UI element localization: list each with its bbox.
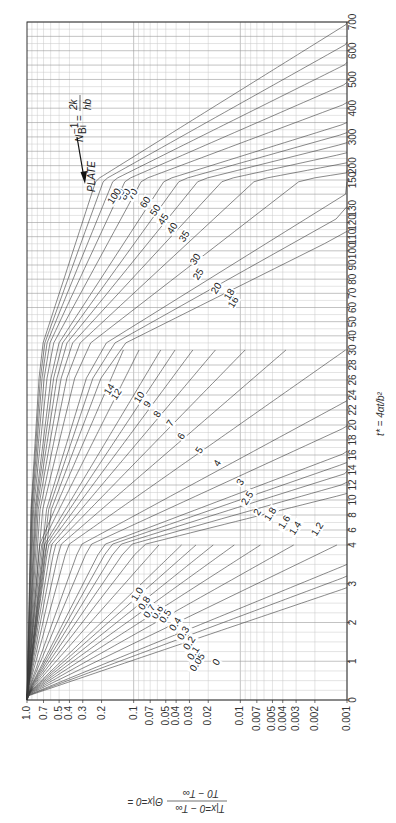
x-axis-title: t* = 4αt/b²	[375, 391, 386, 435]
x-tick-label: 10	[347, 494, 358, 506]
x-tick-label: 2	[347, 619, 358, 625]
x-tick-label: 80	[347, 273, 358, 285]
param-numerator: 2k	[68, 98, 79, 111]
y-tick-label: 0.02	[202, 706, 213, 726]
y-tick-label: 0.002	[309, 706, 320, 731]
x-tick-label: 14	[347, 464, 358, 476]
x-tick-label: 70	[347, 287, 358, 299]
x-tick-label: 8	[347, 512, 358, 518]
x-tick-label: 300	[347, 128, 358, 145]
y-tick-label: 0.004	[277, 706, 288, 731]
heisler-chart: 0123468101214161820222426283040506070809…	[0, 0, 396, 823]
y-tick-label: 0.7	[38, 706, 49, 720]
x-tick-label: 18	[347, 434, 358, 446]
x-tick-label: 6	[347, 527, 358, 533]
y-title-lhs: Θ|x=0 =	[127, 796, 163, 807]
y-title-numerator: T|x=0 − T∞	[175, 803, 225, 814]
x-tick-label: 700	[347, 13, 358, 30]
x-tick-label: 600	[347, 42, 358, 59]
curve	[27, 143, 347, 700]
x-tick-label: 0	[347, 697, 358, 703]
x-tick-label: 4	[347, 542, 358, 548]
curve	[27, 102, 347, 700]
y-tick-label: 0.007	[251, 706, 262, 731]
curve-label: 5	[192, 444, 205, 456]
curve-label: 25	[190, 266, 206, 283]
x-tick-label: 3	[347, 581, 358, 587]
x-tick-label: 22	[347, 404, 358, 416]
theta-axis-ticks: 1.00.70.50.40.30.20.10.070.050.040.030.0…	[21, 700, 352, 731]
param-symbol: N	[74, 134, 85, 142]
y-tick-label: 0.5	[53, 706, 64, 720]
x-tick-label: 12	[347, 479, 358, 491]
curve-label: 7	[163, 417, 176, 429]
y-axis-title: Θ|x=0 = T|x=0 − T∞ T0 − T∞	[127, 788, 227, 814]
y-tick-label: 1.0	[21, 706, 32, 720]
biot-parameter-label: N Bi −1 = 2k hb	[68, 95, 93, 142]
param-superscript: −1	[69, 122, 80, 134]
x-tick-label: 50	[347, 316, 358, 328]
y-tick-label: 0.07	[144, 706, 155, 726]
plate-label: PLATE	[86, 161, 97, 192]
x-tick-label: 500	[347, 71, 358, 88]
curve	[27, 62, 347, 700]
curve-label: 3	[233, 476, 246, 488]
y-tick-label: 0.003	[290, 706, 301, 731]
curve	[27, 451, 347, 700]
x-tick-label: 200	[347, 157, 358, 174]
x-tick-label: 20	[347, 419, 358, 431]
curve-label: 0	[209, 656, 222, 668]
x-tick-label: 16	[347, 449, 358, 461]
curve-label: 6	[174, 430, 187, 442]
curve	[27, 123, 347, 700]
x-tick-label: 40	[347, 330, 358, 342]
x-tick-label: 30	[347, 344, 358, 356]
y-title-denominator: T0 − T∞	[183, 788, 219, 799]
x-tick-label: 28	[347, 359, 358, 371]
y-tick-label: 0.01	[234, 706, 245, 726]
curve	[27, 471, 347, 700]
x-tick-label: 130	[347, 200, 358, 217]
x-tick-label: 1	[347, 658, 358, 664]
x-tick-label: 90	[347, 259, 358, 271]
x-tick-label: 26	[347, 374, 358, 386]
curve-label: 1.2	[307, 518, 326, 540]
t-star-axis-ticks: 0123468101214161820222426283040506070809…	[347, 13, 358, 703]
param-equals: =	[74, 115, 85, 121]
y-tick-label: 0.04	[170, 706, 181, 726]
param-denominator: hb	[82, 98, 93, 110]
y-tick-label: 0.001	[341, 706, 352, 731]
y-tick-label: 0.3	[77, 706, 88, 720]
svg-text:30: 30	[187, 251, 203, 267]
curve-label: 4	[210, 457, 223, 469]
y-tick-label: 0.4	[63, 706, 74, 720]
y-tick-label: 0.1	[128, 706, 139, 720]
y-tick-label: 0.03	[183, 706, 194, 726]
y-tick-label: 0.2	[96, 706, 107, 720]
y-tick-label: 0.05	[160, 706, 171, 726]
x-tick-label: 60	[347, 302, 358, 314]
curve-label: 35	[176, 228, 192, 245]
curve	[27, 463, 347, 701]
x-tick-label: 400	[347, 99, 358, 116]
y-tick-label: 0.005	[266, 706, 277, 731]
x-tick-label: 24	[347, 389, 358, 401]
